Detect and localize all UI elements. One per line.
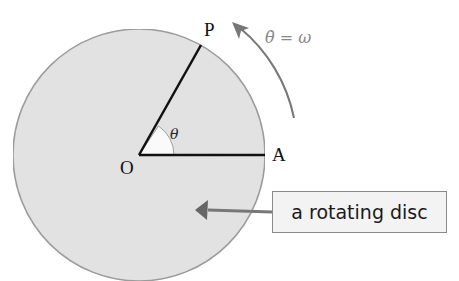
label-O: O	[120, 158, 134, 177]
callout-text: a rotating disc	[291, 201, 427, 223]
diagram-canvas	[0, 0, 459, 281]
label-angular-velocity: θ̇ = ω	[265, 30, 311, 46]
label-A: A	[272, 145, 286, 164]
label-P: P	[204, 20, 215, 39]
label-theta: θ	[170, 127, 178, 141]
rotation-arrowhead-icon	[232, 22, 249, 39]
callout-box: a rotating disc	[272, 191, 447, 233]
callout-arrow-line	[208, 210, 272, 212]
